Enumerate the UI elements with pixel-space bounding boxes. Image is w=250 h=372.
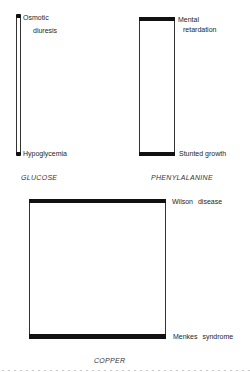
phenylalanine-range-box bbox=[139, 19, 175, 155]
glucose-caption: GLUCOSE bbox=[21, 174, 57, 181]
glucose-upper-limit-cap bbox=[16, 14, 21, 18]
copper-lower-limit-bar bbox=[29, 334, 166, 339]
copper-bottom-label: Menkes syndrome bbox=[173, 333, 233, 341]
copper-upper-limit-bar bbox=[29, 199, 166, 203]
copper-caption: COPPER bbox=[94, 357, 125, 364]
glucose-top-label-line1: Osmotic bbox=[23, 14, 49, 22]
phenylalanine-bottom-label: Stunted growth bbox=[179, 150, 226, 158]
phenylalanine-lower-limit-bar bbox=[139, 152, 175, 156]
copper-top-label: Wilson disease bbox=[172, 198, 222, 206]
copper-range-box bbox=[29, 201, 166, 338]
phenylalanine-upper-limit-bar bbox=[139, 17, 175, 21]
glucose-lower-limit-cap bbox=[16, 152, 21, 156]
glucose-range-tube bbox=[16, 16, 21, 155]
phenylalanine-caption: PHENYLALANINE bbox=[151, 174, 213, 181]
glucose-top-label-line2: diuresis bbox=[33, 27, 57, 35]
phenylalanine-top-label-line1: Mental bbox=[178, 16, 199, 24]
glucose-bottom-label: Hypoglycemia bbox=[23, 150, 67, 158]
phenylalanine-top-label-line2: retardation bbox=[183, 26, 216, 34]
